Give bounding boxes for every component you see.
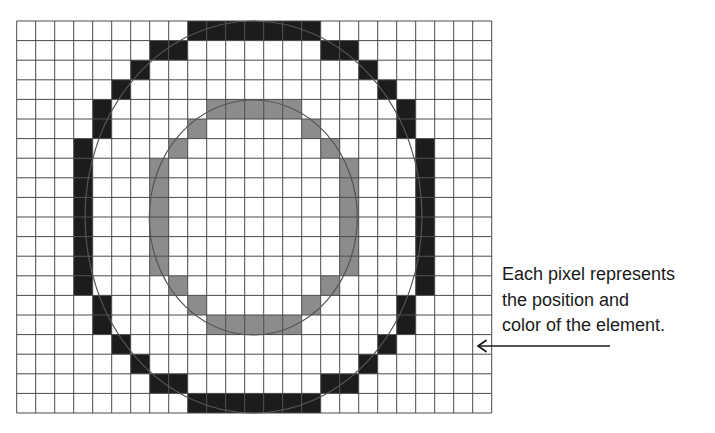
pixel-cell bbox=[131, 354, 150, 374]
pixel-cell bbox=[74, 237, 93, 257]
caption: Each pixel represents the position and c… bbox=[502, 262, 675, 339]
pixel-cell bbox=[321, 276, 340, 296]
pixel-cell bbox=[131, 60, 150, 80]
pixel-cell bbox=[245, 393, 264, 413]
caption-line-2: the position and bbox=[502, 288, 675, 314]
pixel-grid bbox=[17, 21, 492, 413]
pixel-cell bbox=[169, 374, 188, 394]
pixel-cell bbox=[378, 335, 397, 355]
pixel-cell bbox=[245, 315, 264, 335]
pixel-cell bbox=[74, 197, 93, 217]
pixel-cell bbox=[169, 276, 188, 296]
pixel-cell bbox=[74, 139, 93, 159]
pixel-cell bbox=[321, 41, 340, 61]
pixel-cell bbox=[169, 139, 188, 159]
caption-line-1: Each pixel represents bbox=[502, 262, 675, 288]
pixel-cell bbox=[302, 119, 321, 139]
pixel-cell bbox=[302, 295, 321, 315]
pixel-cell bbox=[245, 21, 264, 41]
pixel-grid-diagram bbox=[0, 0, 715, 433]
pixel-cell bbox=[416, 276, 435, 296]
pixel-cell bbox=[416, 139, 435, 159]
pixel-cell bbox=[340, 256, 359, 276]
pixel-cell bbox=[359, 354, 378, 374]
pixel-cell bbox=[93, 119, 112, 139]
pixel-cell bbox=[74, 217, 93, 237]
pixel-cell bbox=[321, 374, 340, 394]
pixel-cell bbox=[283, 99, 302, 119]
pixel-cell bbox=[150, 374, 169, 394]
pixel-cell bbox=[188, 393, 207, 413]
pixel-cell bbox=[150, 197, 169, 217]
pointer-arrow bbox=[478, 341, 610, 352]
pixel-cell bbox=[188, 295, 207, 315]
pixel-cell bbox=[378, 80, 397, 100]
pixel-cell bbox=[283, 315, 302, 335]
pixel-cell bbox=[245, 99, 264, 119]
pixel-cell bbox=[150, 217, 169, 237]
caption-line-3: color of the element. bbox=[502, 313, 675, 339]
pixel-cell bbox=[416, 197, 435, 217]
pixel-cell bbox=[226, 21, 245, 41]
pixel-cell bbox=[340, 158, 359, 178]
pixel-cell bbox=[207, 315, 226, 335]
pixel-cell bbox=[416, 217, 435, 237]
pixel-cell bbox=[74, 276, 93, 296]
pixel-cell bbox=[188, 119, 207, 139]
pixel-cell bbox=[359, 60, 378, 80]
pixel-cell bbox=[188, 21, 207, 41]
pixel-cell bbox=[93, 295, 112, 315]
pixel-cell bbox=[150, 41, 169, 61]
pixel-cell bbox=[397, 99, 416, 119]
pixel-cell bbox=[397, 315, 416, 335]
pixel-cell bbox=[226, 393, 245, 413]
pixel-cell bbox=[207, 99, 226, 119]
pixel-cell bbox=[74, 178, 93, 198]
pixel-cell bbox=[169, 41, 188, 61]
